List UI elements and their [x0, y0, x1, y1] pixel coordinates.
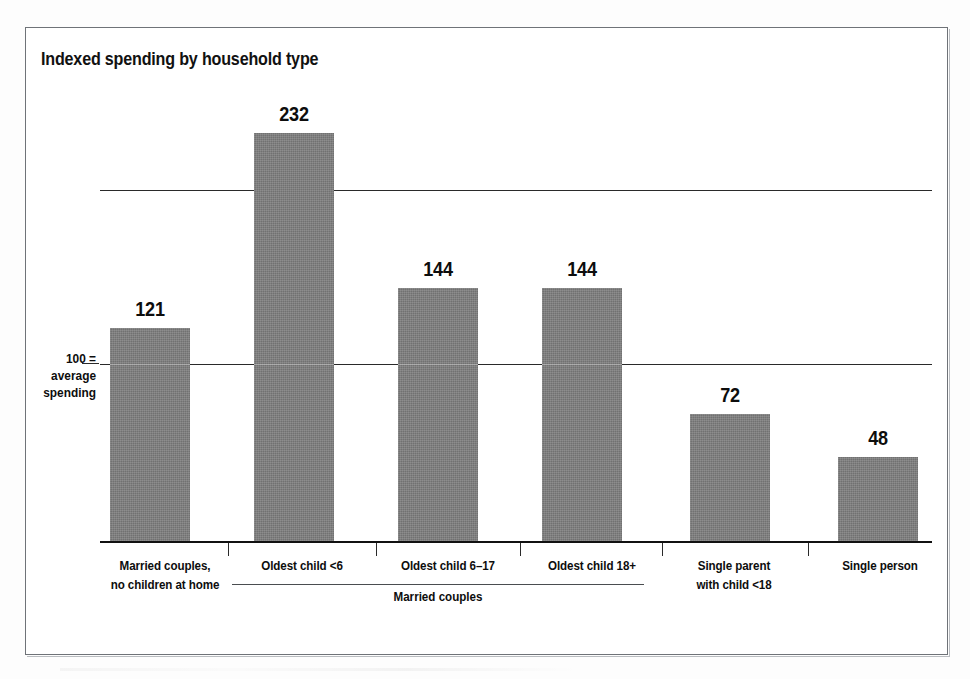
- bar-seam: [254, 364, 334, 365]
- category-label-line-1: Single person: [818, 556, 941, 575]
- gridline-100: [100, 364, 932, 365]
- axis-tick-1: [228, 543, 229, 556]
- bar-value-oldest-child-18-plus: 144: [548, 257, 617, 281]
- axis-tick-3: [520, 543, 521, 556]
- category-label-oldest-child-6-17: Oldest child 6–17: [386, 556, 509, 575]
- y-reference-line-3: spending: [41, 384, 96, 401]
- category-label-line-1: Married couples,: [106, 556, 224, 575]
- group-bracket-label: Married couples: [257, 589, 620, 604]
- bar-oldest-child-18-plus: [542, 288, 622, 541]
- category-label-single-parent: Single parent with child <18: [672, 556, 795, 594]
- category-label-married-no-children: Married couples, no children at home: [106, 556, 224, 594]
- scan-artifact: [60, 668, 580, 671]
- bar-married-no-children: [110, 328, 190, 541]
- bar-oldest-child-under-6: [254, 133, 334, 541]
- chart-page: Indexed spending by household type 100 =…: [0, 0, 970, 679]
- bar-single-parent: [690, 414, 770, 541]
- bar-seam: [542, 364, 622, 365]
- plot-area: 100 = average spending 121 232 144 144 7…: [0, 0, 970, 679]
- bar-value-single-person: 48: [844, 426, 913, 450]
- bar-value-oldest-child-under-6: 232: [260, 102, 329, 126]
- category-label-oldest-child-under-6: Oldest child <6: [240, 556, 363, 575]
- group-bracket-rule: [232, 584, 644, 585]
- category-label-line-1: Single parent: [672, 556, 795, 575]
- y-reference-label: 100 = average spending: [41, 350, 96, 401]
- bar-oldest-child-6-17: [398, 288, 478, 541]
- category-label-line-1: Oldest child 18+: [530, 556, 653, 575]
- bar-single-person: [838, 457, 918, 541]
- bar-seam: [110, 364, 190, 365]
- axis-tick-2: [376, 543, 377, 556]
- bar-value-single-parent: 72: [696, 383, 765, 407]
- y-reference-line-2: average: [41, 367, 96, 384]
- bar-value-oldest-child-6-17: 144: [404, 257, 473, 281]
- category-label-line-1: Oldest child 6–17: [386, 556, 509, 575]
- axis-tick-4: [662, 543, 663, 556]
- category-label-line-2: no children at home: [106, 575, 224, 594]
- category-label-line-1: Oldest child <6: [240, 556, 363, 575]
- y-reference-line-1: 100 =: [41, 350, 96, 367]
- category-label-single-person: Single person: [818, 556, 941, 575]
- category-label-oldest-child-18-plus: Oldest child 18+: [530, 556, 653, 575]
- category-label-line-2: with child <18: [672, 575, 795, 594]
- bar-seam: [398, 364, 478, 365]
- bar-value-married-no-children: 121: [116, 297, 185, 321]
- axis-tick-5: [808, 543, 809, 556]
- gridline-200: [100, 190, 932, 191]
